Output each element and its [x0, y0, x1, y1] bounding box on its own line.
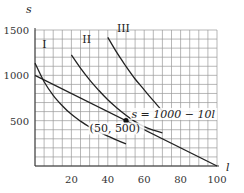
x-tick-label: 80	[174, 174, 187, 185]
grid	[35, 30, 217, 166]
chart: sl 2040608010050010001500 IIIIIIs = 1000…	[0, 0, 244, 193]
x-tick-label: 60	[138, 174, 151, 185]
x-tick-label: 100	[207, 174, 226, 185]
x-axis-label: l	[226, 161, 230, 174]
x-tick-label: 20	[65, 174, 78, 185]
annotation: s = 1000 − 10l	[131, 108, 215, 121]
annotation: II	[82, 33, 91, 46]
annotation: I	[42, 38, 46, 51]
y-tick-label: 1500	[4, 25, 29, 36]
x-tick-label: 40	[101, 174, 114, 185]
annotation: (50, 500)	[90, 122, 141, 135]
y-axis-label: s	[26, 3, 32, 16]
y-tick-label: 1000	[4, 70, 29, 81]
y-tick-label: 500	[10, 116, 29, 127]
annotation: III	[117, 22, 130, 35]
